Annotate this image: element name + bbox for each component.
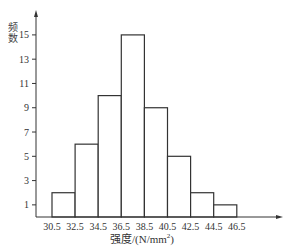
x-axis-label-close: )	[170, 233, 174, 245]
histogram-bar	[168, 156, 191, 217]
y-tick-label: 1	[24, 199, 29, 210]
y-tick-label: 15	[19, 29, 29, 40]
histogram-bar	[121, 35, 144, 217]
x-tick-label: 30.5	[43, 221, 61, 232]
y-tick-label: 5	[24, 151, 29, 162]
histogram-chart: 13579111315 30.532.534.536.538.540.542.5…	[0, 0, 285, 252]
y-tick-label: 11	[19, 78, 29, 89]
histogram-bar	[52, 193, 75, 217]
x-tick-label: 44.5	[205, 221, 223, 232]
histogram-bar	[98, 96, 121, 217]
y-tick-label: 13	[19, 54, 29, 65]
histogram-bar	[75, 144, 98, 217]
x-tick-label: 46.5	[228, 221, 246, 232]
histogram-bar	[144, 108, 167, 217]
y-ticks: 13579111315	[19, 29, 36, 210]
x-axis-label: 强度/(N/mm2)	[110, 230, 174, 246]
x-tick-label: 32.5	[66, 221, 84, 232]
histogram-bar	[214, 205, 237, 217]
x-tick-label: 34.5	[89, 221, 107, 232]
histogram-bars	[52, 35, 237, 217]
x-tick-label: 42.5	[182, 221, 200, 232]
histogram-bar	[191, 193, 214, 217]
y-axis-label: 频数	[5, 22, 17, 44]
y-tick-label: 7	[24, 127, 29, 138]
y-axis-arrow-icon	[34, 10, 38, 17]
x-axis-label-main: 强度/(N/mm	[110, 233, 167, 245]
x-axis-arrow-icon	[276, 215, 283, 219]
y-tick-label: 3	[24, 175, 29, 186]
y-tick-label: 9	[24, 102, 29, 113]
